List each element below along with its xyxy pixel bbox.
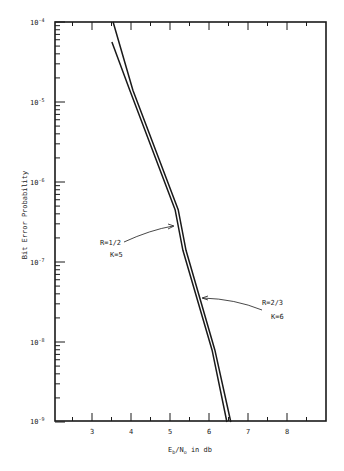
x-axis-title: Eb/No in db [168,446,212,455]
x-tick-labels: 3 4 5 6 7 8 [90,428,289,436]
svg-text:R=2/3: R=2/3 [262,299,283,307]
svg-text:8: 8 [285,428,289,436]
svg-text:K=6: K=6 [271,313,284,321]
annotation-r23-k6: R=2/3 K=6 [202,296,284,321]
svg-text:10-7: 10-7 [30,257,44,267]
svg-text:10-5: 10-5 [30,97,44,107]
y-axis-ticks [55,22,65,422]
y-axis-title: Bit Error Probability [21,171,29,260]
x-axis-ticks [73,22,307,421]
svg-text:K=5: K=5 [110,251,123,259]
y-tick-labels: 10-4 10-5 10-6 10-7 10-8 10-9 [30,17,44,426]
svg-text:7: 7 [246,428,250,436]
svg-text:4: 4 [129,428,133,436]
curve-r12-k5 [112,42,227,422]
svg-text:10-6: 10-6 [30,177,44,187]
ber-chart: 10-4 10-5 10-6 10-7 10-8 10-9 3 4 5 6 7 … [0,0,344,471]
svg-text:10-4: 10-4 [30,17,44,27]
svg-text:3: 3 [90,428,94,436]
svg-text:6: 6 [207,428,211,436]
annotation-r12-k5: R=1/2 K=5 [100,224,174,259]
svg-text:R=1/2: R=1/2 [100,239,121,247]
svg-text:10-8: 10-8 [30,337,44,347]
svg-text:5: 5 [168,428,172,436]
curve-r23-k6 [113,22,231,422]
plot-frame [55,22,326,421]
svg-text:10-9: 10-9 [30,416,44,426]
